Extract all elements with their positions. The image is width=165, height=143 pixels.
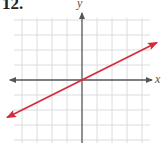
coordinate-plane	[0, 0, 165, 143]
